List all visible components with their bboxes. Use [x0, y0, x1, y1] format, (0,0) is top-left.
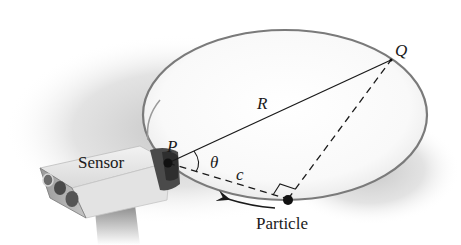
- label-theta: θ: [210, 154, 218, 171]
- diagram-graphics: [0, 0, 461, 245]
- label-c: c: [236, 166, 244, 183]
- circular-track: [143, 30, 427, 200]
- point-q-dot: [390, 59, 393, 62]
- label-r: R: [257, 95, 267, 112]
- label-sensor: Sensor: [78, 154, 124, 171]
- particle-dot: [283, 195, 293, 205]
- diagram-canvas: Q R P θ c Sensor Particle: [0, 0, 461, 245]
- label-q: Q: [395, 42, 407, 59]
- label-p: P: [167, 138, 177, 155]
- point-p-dot: [164, 159, 173, 168]
- label-particle: Particle: [256, 215, 308, 232]
